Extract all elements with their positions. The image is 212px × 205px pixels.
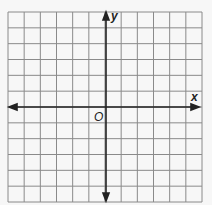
y-axis-up-arrow-icon [103, 12, 109, 20]
y-axis-down-arrow-icon [103, 193, 109, 201]
coordinate-grid [0, 0, 212, 205]
origin-label: O [94, 111, 103, 123]
x-axis-label: x [191, 91, 198, 103]
y-axis-label: y [111, 10, 118, 22]
x-axis-left-arrow-icon [9, 104, 17, 110]
x-axis [9, 104, 199, 110]
x-axis-right-arrow-icon [191, 104, 199, 110]
